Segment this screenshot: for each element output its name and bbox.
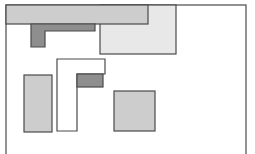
shape-left-rect xyxy=(24,75,52,132)
diagram-canvas xyxy=(0,0,255,154)
shape-top-bar xyxy=(6,5,148,24)
shape-dark-small xyxy=(77,74,103,87)
shape-square xyxy=(114,91,155,131)
